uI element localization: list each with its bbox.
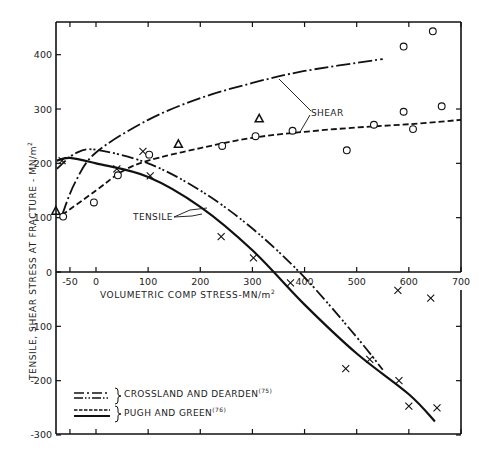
x-tick-label: 100 [139, 276, 157, 287]
circle-marker [252, 133, 259, 140]
cross-marker [395, 377, 402, 384]
y-tick-label: 0 [46, 267, 52, 278]
shear-label: SHEAR [311, 108, 344, 118]
legend-pugh-label: PUGH AND GREEN(76) [124, 406, 226, 418]
circle-marker [289, 127, 296, 134]
y-tick-label: -300 [30, 429, 52, 440]
curve-dashed [62, 120, 461, 215]
triangle-marker [174, 140, 182, 148]
circle-marker [438, 103, 445, 110]
circle-marker [146, 151, 153, 158]
x-tick-label: -50 [62, 276, 78, 287]
y-tick-label: 400 [34, 49, 52, 60]
x-tick-label: 500 [348, 276, 366, 287]
cross-marker [433, 404, 440, 411]
cross-marker [342, 365, 349, 372]
circle-marker [114, 172, 121, 179]
cross-marker [218, 233, 225, 240]
plot-frame [56, 22, 461, 434]
y-tick-label: 300 [34, 104, 52, 115]
triangle-marker [255, 114, 263, 122]
curve-dash-dot [62, 59, 383, 215]
circle-marker [400, 43, 407, 50]
x-tick-label: 700 [452, 276, 470, 287]
shear-annotation: SHEAR [279, 79, 344, 132]
legend-crossland-label: CROSSLAND AND DEARDEN(75) [124, 387, 272, 399]
circle-marker [343, 147, 350, 154]
circle-marker [219, 143, 226, 150]
cross-marker [394, 287, 401, 294]
x-tick-label: 0 [93, 276, 99, 287]
tensile-label: TENSILE [132, 212, 173, 222]
y-axis-title: TENSILE, SHEAR STRESS AT FRACTURE - MN/m… [26, 142, 38, 381]
tensile-annotation: TENSILE [132, 208, 207, 222]
legend: CROSSLAND AND DEARDEN(75) PUGH AND GREEN… [74, 387, 272, 422]
cross-marker [405, 403, 412, 410]
x-axis-title: VOLUMETRIC COMP STRESS-MN/m2 [100, 288, 275, 300]
x-tick-label: 600 [400, 276, 418, 287]
data-markers [52, 28, 445, 411]
circle-marker [371, 121, 378, 128]
cross-marker [250, 254, 257, 261]
circle-marker [429, 28, 436, 35]
x-tick-label: 200 [191, 276, 209, 287]
legend-item-pugh [74, 406, 121, 422]
circle-marker [60, 213, 67, 220]
legend-item-crossland [74, 388, 121, 404]
cross-marker [287, 279, 294, 286]
cross-marker [427, 295, 434, 302]
axis-ticks [56, 22, 461, 435]
circle-marker [91, 199, 98, 206]
circle-marker [410, 126, 417, 133]
x-tick-label: 300 [243, 276, 261, 287]
cross-marker [366, 356, 373, 363]
fracture-stress-chart: -500100200300400500600700-300-200-100010… [0, 0, 482, 455]
circle-marker [400, 108, 407, 115]
